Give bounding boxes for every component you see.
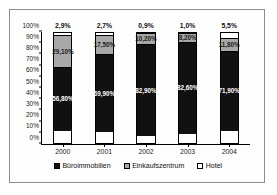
bar-slot: 2,7%17,50%69,90%2001: [84, 32, 126, 144]
x-axis-tick-mark: [229, 144, 230, 147]
y-axis-tick-label: 50%: [26, 78, 39, 85]
bar-slot: 0,9%10,20%82,90%2002: [125, 32, 167, 144]
legend-item[interactable]: Büroimmobilien: [54, 162, 111, 169]
stacked-bar[interactable]: 1,0%8,20%82,60%: [178, 32, 197, 144]
legend-label: Hotel: [206, 162, 222, 169]
bar-segment[interactable]: 82,60%: [179, 43, 196, 134]
legend-swatch-icon: [54, 163, 60, 169]
bar-segment-label: 10,20%: [135, 36, 156, 42]
x-axis-tick-label: 2001: [97, 149, 112, 156]
bar-segment-label: 69,90%: [94, 91, 115, 97]
bar-top-label: 2,7%: [97, 23, 113, 30]
legend-item[interactable]: Hotel: [197, 162, 222, 169]
stacked-bar[interactable]: 2,9%29,10%56,80%: [53, 32, 72, 144]
bar-top-label: 0,9%: [138, 23, 154, 30]
legend-swatch-icon: [197, 163, 203, 169]
x-axis-tick-mark: [188, 144, 189, 147]
bar-top-label: 2,9%: [55, 23, 71, 30]
legend-label: Büroimmobilien: [62, 162, 110, 169]
stacked-bar[interactable]: 5,5%11,80%71,90%: [220, 32, 239, 144]
bar-segment-label: 71,90%: [219, 88, 240, 94]
bar-top-label: 1,0%: [180, 23, 196, 30]
bar-segment[interactable]: 11,80%: [221, 39, 238, 52]
y-axis-tick-label: 70%: [26, 56, 39, 63]
chart-canvas: 0%10%20%30%40%50%60%70%80%90%100% 2,9%29…: [10, 10, 266, 184]
bar-segment-label: 11,80%: [219, 42, 240, 48]
plot-area: 0%10%20%30%40%50%60%70%80%90%100% 2,9%29…: [41, 32, 250, 145]
x-axis-tick-mark: [146, 144, 147, 147]
chart-frame: 0%10%20%30%40%50%60%70%80%90%100% 2,9%29…: [9, 9, 265, 183]
x-axis-tick-label: 2000: [55, 149, 70, 156]
bar-top-label: 5,5%: [221, 23, 237, 30]
bar-slot: 5,5%11,80%71,90%2004: [208, 32, 250, 144]
y-axis-tick-label: 30%: [26, 101, 39, 108]
legend-swatch-icon: [124, 163, 130, 169]
x-axis-tick-mark: [63, 144, 64, 147]
x-axis-tick-label: 2004: [222, 149, 237, 156]
bar-segment[interactable]: 29,10%: [54, 36, 71, 68]
y-axis-tick-label: 40%: [26, 89, 39, 96]
y-axis-tick-label: 80%: [26, 45, 39, 52]
bar-segment[interactable]: 69,90%: [96, 55, 113, 132]
legend-label: Einkaufszentrum: [132, 162, 184, 169]
y-axis-tick-label: 10%: [26, 123, 39, 130]
bar-segment-label: 8,20%: [179, 35, 197, 41]
y-axis-tick-label: 0%: [30, 134, 39, 141]
y-axis-tick-label: 20%: [26, 112, 39, 119]
bar-segment[interactable]: 10,20%: [137, 34, 154, 45]
bar-segment[interactable]: 8,20%: [179, 34, 196, 43]
bar-segment[interactable]: 71,90%: [221, 52, 238, 131]
bar-slot: 2,9%29,10%56,80%2000: [42, 32, 84, 144]
bar-segment-label: 82,90%: [135, 88, 156, 94]
bar-slot: 1,0%8,20%82,60%2003: [167, 32, 209, 144]
bar-segment[interactable]: 56,80%: [54, 68, 71, 130]
bar-segment-label: 29,10%: [52, 49, 73, 55]
x-axis-tick-label: 2002: [138, 149, 153, 156]
y-axis-tick-label: 90%: [26, 33, 39, 40]
y-axis-tick-label: 60%: [26, 67, 39, 74]
bar-segment-label: 17,50%: [94, 42, 115, 48]
y-axis-tick-label: 100%: [22, 22, 39, 29]
bar-segment[interactable]: 82,90%: [137, 45, 154, 136]
x-axis-tick-label: 2003: [180, 149, 195, 156]
bar-segment[interactable]: 17,50%: [96, 36, 113, 55]
legend-item[interactable]: Einkaufszentrum: [124, 162, 185, 169]
x-axis-tick-mark: [104, 144, 105, 147]
chart-legend: BüroimmobilienEinkaufszentrumHotel: [10, 162, 266, 169]
bar-segment-label: 82,60%: [177, 85, 198, 91]
bar-segment-label: 56,80%: [52, 96, 73, 102]
stacked-bar[interactable]: 0,9%10,20%82,90%: [136, 32, 155, 144]
stacked-bar[interactable]: 2,7%17,50%69,90%: [95, 32, 114, 144]
